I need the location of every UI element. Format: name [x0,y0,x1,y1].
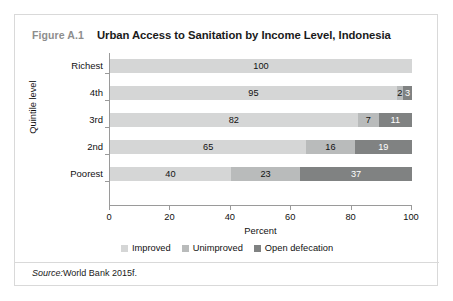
y-axis-tick-labels: Richest4th3rd2ndPoorest [48,53,107,201]
source-label: Source: [32,268,63,278]
bar-value-label: 11 [379,113,412,127]
y-axis-tick-label-poorest: Poorest [70,167,103,181]
legend-label: Improved [132,243,171,253]
page-title: Urban Access to Sanitation by Income Lev… [97,29,391,41]
bar-value-label: 19 [355,140,412,154]
legend-item-unimproved[interactable]: Unimproved [182,243,243,253]
bar-value-label: 65 [110,140,306,154]
x-axis-tick [230,206,231,210]
legend-item-open-defecation[interactable]: Open defecation [254,243,333,253]
x-axis-tick-label: 0 [94,212,124,222]
bar-value-label: 95 [110,86,397,100]
bar-row-3rd: 82711 [110,113,412,127]
x-axis-line [109,205,412,206]
bar-row-4th: 9523 [110,86,412,100]
source-note: Source:World Bank 2015f. [32,268,137,278]
x-axis-tick [169,206,170,210]
chart-legend: ImprovedUnimprovedOpen defecation [15,243,439,253]
bar-row-2nd: 651619 [110,140,412,154]
bar-row-poorest: 402337 [110,167,412,181]
y-axis-tick [105,154,109,155]
y-axis-tick-label-3rd: 3rd [89,113,103,127]
legend-swatch-icon [182,245,189,252]
bar-row-richest: 100 [110,59,412,73]
bar-value-label: 37 [300,167,412,181]
y-axis-tick-label-richest: Richest [71,59,103,73]
bar-value-label: 82 [110,113,358,127]
bar-value-label: 40 [110,167,231,181]
bar-value-label: 7 [358,113,379,127]
y-axis-tick [105,127,109,128]
y-axis-tick-label-4th: 4th [90,86,103,100]
x-axis-tick [109,206,110,210]
source-divider [15,262,439,263]
figure-card: Figure A.1 Urban Access to Sanitation by… [14,14,438,286]
legend-label: Unimproved [193,243,243,253]
x-axis-tick-label: 40 [215,212,245,222]
figure-title-row: Figure A.1 Urban Access to Sanitation by… [32,29,391,41]
y-axis-tick-label-2nd: 2nd [87,140,103,154]
legend-label: Open defecation [265,243,333,253]
bars-area: 100952382711651619402337 [110,53,412,205]
legend-swatch-icon [254,245,261,252]
y-axis-tick [105,181,109,182]
x-axis-tick-label: 60 [275,212,305,222]
y-axis-tick [105,100,109,101]
x-axis-tick-label: 20 [154,212,184,222]
x-axis-tick-label: 80 [336,212,366,222]
bar-value-label: 3 [403,86,412,100]
x-axis-tick-label: 100 [396,212,426,222]
x-axis-tick [411,206,412,210]
bar-value-label: 16 [306,140,354,154]
x-axis-tick [351,206,352,210]
figure-number: Figure A.1 [32,29,84,41]
y-axis-title: Quintile level [26,53,40,161]
chart-plot-area: Quintile level Richest4th3rd2ndPoorest 1… [32,53,422,238]
x-axis-title: Percent [109,225,412,236]
x-axis-tick [290,206,291,210]
y-axis-tick [105,73,109,74]
bar-value-label: 23 [231,167,300,181]
source-text: World Bank 2015f. [63,268,137,278]
bar-value-label: 100 [110,59,412,73]
legend-item-improved[interactable]: Improved [121,243,171,253]
legend-swatch-icon [121,245,128,252]
